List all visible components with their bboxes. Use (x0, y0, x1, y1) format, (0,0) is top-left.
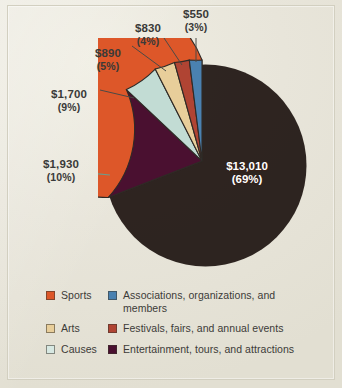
slice-label-arts-percent: (5%) (80, 60, 136, 73)
slice-label-sports-value: $13,010 (226, 160, 268, 172)
legend-item-entertainment[interactable]: Entertainment, tours, and attractions (108, 343, 304, 356)
slice-label-arts: $890 (5%) (80, 47, 136, 72)
legend-swatch-associations (108, 291, 117, 300)
legend-swatch-sports (46, 291, 55, 300)
legend-item-festivals[interactable]: Festivals, fairs, and annual events (108, 322, 304, 335)
pie-svg (98, 38, 310, 278)
legend-label-sports: Sports (61, 289, 92, 302)
slice-label-associations-value: $550 (183, 8, 209, 20)
slice-label-causes: $1,700 (9%) (38, 88, 100, 113)
slice-label-entertainment-percent: (10%) (30, 171, 92, 184)
slice-label-associations-percent: (3%) (168, 21, 224, 34)
slice-label-arts-value: $890 (95, 47, 121, 59)
slice-label-causes-percent: (9%) (38, 101, 100, 114)
legend-item-arts[interactable]: Arts (46, 322, 108, 335)
legend-swatch-entertainment (108, 345, 117, 354)
legend-swatch-causes (46, 345, 55, 354)
legend-row: Arts Festivals, fairs, and annual events (46, 322, 304, 335)
legend-item-associations[interactable]: Associations, organizations, and members (108, 289, 304, 314)
slice-label-festivals: $830 (4%) (121, 22, 175, 47)
legend-label-associations: Associations, organizations, and members (123, 289, 304, 314)
slice-label-associations: $550 (3%) (168, 8, 224, 33)
legend-item-sports[interactable]: Sports (46, 289, 108, 302)
slice-label-entertainment-value: $1,930 (43, 158, 79, 170)
pie-chart (98, 38, 310, 278)
slice-label-entertainment: $1,930 (10%) (30, 158, 92, 183)
legend-label-arts: Arts (61, 322, 80, 335)
legend-row: Sports Associations, organizations, and … (46, 289, 304, 314)
legend-row: Causes Entertainment, tours, and attract… (46, 343, 304, 356)
slice-label-sports: $13,010 (69%) (212, 160, 282, 185)
legend-item-causes[interactable]: Causes (46, 343, 108, 356)
legend-label-causes: Causes (61, 343, 97, 356)
slice-label-sports-percent: (69%) (232, 173, 263, 185)
slice-label-causes-value: $1,700 (51, 88, 87, 100)
slice-label-festivals-percent: (4%) (121, 35, 175, 48)
legend-swatch-festivals (108, 324, 117, 333)
legend-swatch-arts (46, 324, 55, 333)
legend-label-entertainment: Entertainment, tours, and attractions (123, 343, 294, 356)
slice-label-festivals-value: $830 (135, 22, 161, 34)
legend: Sports Associations, organizations, and … (46, 289, 304, 363)
legend-label-festivals: Festivals, fairs, and annual events (123, 322, 284, 335)
pie-chart-figure: $550 (3%) $830 (4%) $890 (5%) $1,700 (9%… (0, 0, 342, 388)
